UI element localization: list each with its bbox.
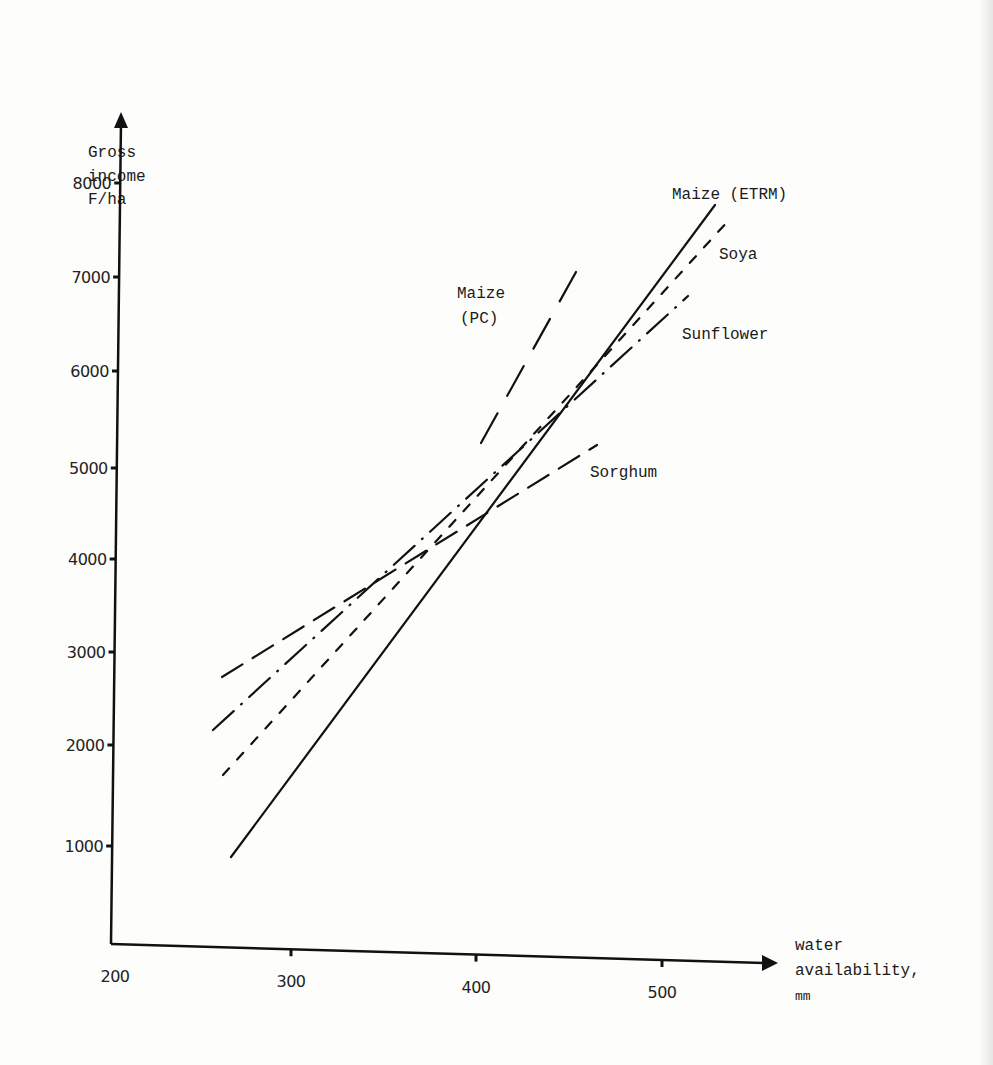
series-soya (223, 221, 728, 775)
x-tick-label: 400 (461, 978, 490, 997)
series-sunflower (213, 296, 688, 730)
label-sunflower: Sunflower (682, 326, 768, 344)
x-axis-arrow-icon (762, 955, 778, 971)
y-tick-label: 4000 (68, 550, 107, 569)
y-ticks: 10002000300040005000600070008000 (64, 174, 120, 856)
x-tick-label: 500 (647, 983, 676, 1002)
y-tick-label: 2000 (66, 736, 105, 755)
scan-edge-shadow (979, 0, 993, 1065)
y-tick-label: 8000 (73, 174, 112, 193)
x-axis-title-line: water (795, 937, 843, 955)
y-axis-line (111, 122, 121, 944)
x-tick-label: 200 (100, 967, 129, 986)
y-tick-label: 1000 (64, 837, 103, 856)
x-tick-label: 300 (276, 972, 305, 991)
x-axis-title: water availability, mm (795, 937, 920, 1004)
x-axis-title-line: availability, (795, 962, 920, 980)
y-tick-label: 5000 (69, 459, 108, 478)
y-tick-label: 3000 (67, 643, 106, 662)
y-axis-arrow-icon (114, 112, 128, 128)
x-axis-line (111, 944, 765, 963)
line-chart: Gross income F/ha 1000200030004000500060… (0, 0, 993, 1065)
y-tick-label: 7000 (71, 268, 110, 287)
x-axis-title-line: mm (795, 989, 811, 1004)
label-maize-etrm: Maize (ETRM) (672, 186, 787, 204)
series-sorghum (222, 445, 597, 677)
label-maize-pc: Maize (457, 285, 505, 303)
label-maize-pc: (PC) (460, 310, 498, 328)
y-tick-label: 6000 (70, 362, 109, 381)
y-axis-title-line: Gross (88, 144, 136, 162)
label-sorghum: Sorghum (590, 464, 657, 482)
label-soya: Soya (719, 246, 758, 264)
